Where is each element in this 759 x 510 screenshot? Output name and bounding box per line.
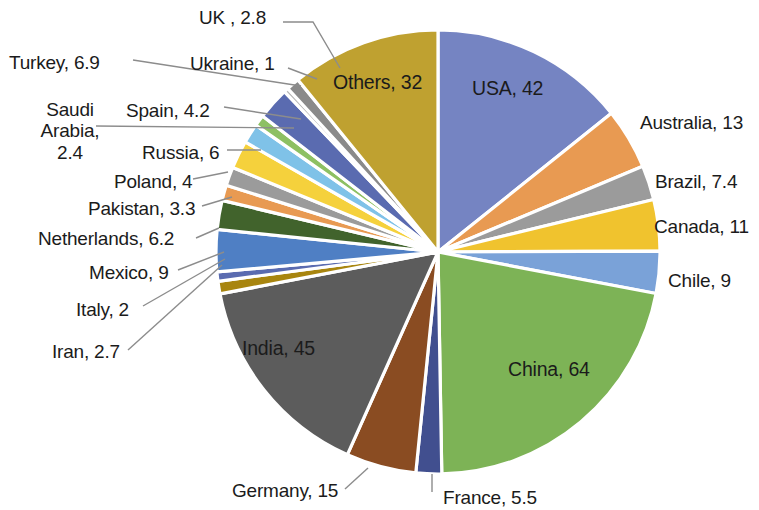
- pie-label-poland: Poland, 4: [114, 171, 193, 192]
- pie-label-germany: Germany, 15: [232, 480, 338, 501]
- pie-label-spain: Spain, 4.2: [126, 100, 210, 121]
- pie-label-pakistan: Pakistan, 3.3: [88, 198, 195, 219]
- pie-slices-group: [216, 30, 660, 474]
- pie-label-australia: Australia, 13: [640, 112, 743, 133]
- pie-label-france: France, 5.5: [443, 487, 537, 508]
- pie-label-saudi-arabia: Saudi Arabia, 2.4: [10, 99, 130, 163]
- pie-label-chile: Chile, 9: [668, 270, 731, 291]
- pie-label-turkey: Turkey, 6.9: [9, 52, 100, 73]
- leader-line-poland: [193, 172, 228, 179]
- pie-label-russia: Russia, 6: [142, 142, 219, 163]
- pie-label-iran: Iran, 2.7: [52, 341, 120, 362]
- pie-chart: USA, 42Others, 32Australia, 13Brazil, 7.…: [0, 0, 759, 510]
- pie-label-china: China, 64: [508, 359, 590, 381]
- pie-label-uk: UK , 2.8: [199, 7, 266, 28]
- pie-label-mexico: Mexico, 9: [89, 262, 169, 283]
- pie-label-others: Others, 32: [333, 72, 422, 94]
- pie-label-italy: Italy, 2: [76, 299, 129, 320]
- pie-label-brazil: Brazil, 7.4: [655, 171, 737, 192]
- pie-label-ukraine: Ukraine, 1: [190, 53, 275, 74]
- leader-line-germany: [345, 468, 368, 489]
- pie-label-india: India, 45: [242, 338, 315, 360]
- pie-label-usa: USA, 42: [472, 78, 543, 100]
- pie-label-canada: Canada, 11: [654, 216, 749, 237]
- pie-label-netherlands: Netherlands, 6.2: [38, 228, 174, 249]
